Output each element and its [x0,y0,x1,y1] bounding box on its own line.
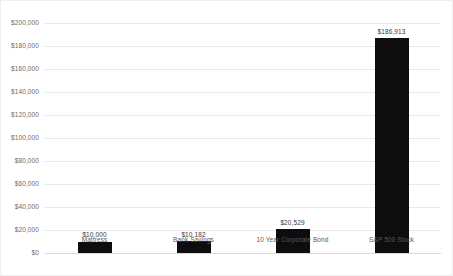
y-axis-tick-label: $80,000 [0,158,39,165]
y-axis-tick-label: $60,000 [0,181,39,188]
bar-value-label: $186,913 [378,29,406,36]
plot-area: $10,000 $10,182 $20,529 $186,913 [45,23,441,253]
y-axis-tick-label: $40,000 [0,204,39,211]
bar-value-label: $20,529 [280,220,304,227]
y-axis-tick-label: $100,000 [0,135,39,142]
bar-slot: $186,913 [342,23,441,253]
bar-slot: $10,182 [144,23,243,253]
category-label: Mattress [82,237,108,244]
x-axis-line [45,253,441,254]
bar[interactable] [375,38,409,253]
y-axis-tick-label: $20,000 [0,227,39,234]
y-axis-tick-label: $0 [0,250,39,257]
y-axis-tick-label: $180,000 [0,43,39,50]
category-label: 10 Year Corporate Bond [257,237,329,244]
bar-chart: $200,000 $180,000 $160,000 $140,000 $120… [0,0,453,276]
category-label: Bank Savings [173,237,214,244]
y-axis-tick-label: $160,000 [0,66,39,73]
y-axis-tick-label: $120,000 [0,112,39,119]
y-axis-tick-label: $200,000 [0,20,39,27]
category-label: S&P 500 Stock [369,237,414,244]
y-axis-tick-label: $140,000 [0,89,39,96]
bar-slot: $20,529 [243,23,342,253]
bar-slot: $10,000 [45,23,144,253]
